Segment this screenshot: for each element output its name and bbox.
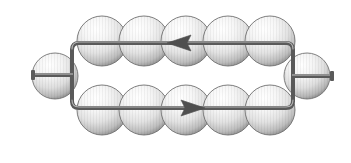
loop-diagram-svg (0, 0, 351, 163)
diagram-canvas: Current loop with bead-shaped elements (0, 0, 351, 163)
right-terminal-cap (330, 71, 334, 81)
left-terminal-cap (31, 70, 35, 80)
